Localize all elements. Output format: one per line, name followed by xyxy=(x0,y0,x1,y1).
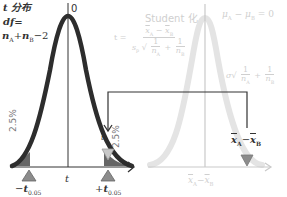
observed-difference-label: xA−xB xyxy=(231,135,261,147)
t-distribution-diagram: t 分布 df= nA+nB−2 0 2.5% 2.5% t t −t0.05 … xyxy=(0,0,287,197)
sigma: σ xyxy=(226,71,231,80)
sub-p: p xyxy=(136,49,139,54)
sub-b: B xyxy=(170,32,174,37)
null-hypothesis: μA − μB = 0 xyxy=(222,10,274,21)
sub-a: A xyxy=(150,32,153,37)
plus-critical-label: +t0.05 xyxy=(95,184,121,196)
formula-denominator: sp √ 1nA + 1nB xyxy=(130,38,188,57)
minus-critical-label: −t0.05 xyxy=(15,184,41,196)
df-formula: nA+nB−2 xyxy=(2,31,48,43)
t-equals: t = xyxy=(114,34,126,42)
equals-zero: = 0 xyxy=(258,9,274,19)
formula-numerator: xA − xB xyxy=(143,27,175,38)
plus: + xyxy=(165,43,172,52)
standard-error-term: σ√ 1nA + 1nB xyxy=(226,66,276,85)
df-label: df= xyxy=(3,17,23,27)
minus: − xyxy=(242,134,250,145)
minus: − xyxy=(156,26,163,35)
title-text: t 分布 xyxy=(3,2,31,13)
formula-fraction: xA − xB sp √ 1nA + 1nB xyxy=(130,27,188,58)
right-x-axis-label: xA−xB xyxy=(188,176,214,187)
se-frac-b: 1nB xyxy=(264,66,277,85)
df-plus: + xyxy=(14,30,22,41)
sub-b: B xyxy=(210,181,214,187)
sub-a: A xyxy=(246,80,249,85)
peak-zero-label: 0 xyxy=(71,4,77,14)
sub-b: B xyxy=(271,80,275,85)
sub-b: B xyxy=(251,15,255,21)
left-tail-percent: 2.5% xyxy=(9,109,18,132)
sub-a: A xyxy=(228,15,232,21)
studentize-formula: xA − xB sp √ 1nA + 1nB xyxy=(130,27,188,58)
observed-t-label: t xyxy=(101,134,104,142)
se-frac-a: 1nA xyxy=(239,66,252,85)
x-axis-t-label: t xyxy=(65,174,69,184)
distribution-title: t 分布 xyxy=(3,3,31,13)
studentize-heading: Student 化 xyxy=(145,14,198,24)
inner-frac-b: 1nB xyxy=(174,38,187,57)
plus-critical-marker-icon xyxy=(101,170,115,181)
minus-critical-marker-icon xyxy=(22,170,36,181)
alpha-sub: 0.05 xyxy=(108,189,121,196)
df-minus-two: −2 xyxy=(34,30,49,41)
sub-b: B xyxy=(181,52,185,57)
minus: − xyxy=(197,175,205,185)
sub-b: B xyxy=(256,140,261,147)
minus: − xyxy=(235,9,243,19)
sub-a: A xyxy=(157,52,160,57)
inner-frac-a: 1nA xyxy=(149,38,162,57)
alpha-sub: 0.05 xyxy=(28,189,41,196)
plus: + xyxy=(254,71,261,80)
right-tail-percent: 2.5% xyxy=(112,125,121,148)
